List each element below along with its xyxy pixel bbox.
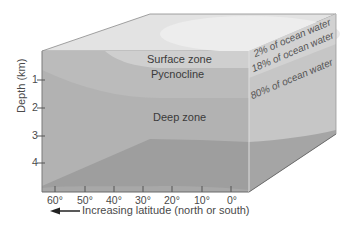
surface-zone-label: Surface zone [147, 53, 212, 65]
y-tick-4: 4 [32, 156, 38, 168]
y-axis-label: Depth (km) [15, 59, 27, 113]
pycnocline-label: Pycnocline [151, 68, 204, 80]
deep-zone-label: Deep zone [153, 111, 206, 123]
x-tick-60: 60° [47, 194, 63, 206]
y-tick-1: 1 [32, 73, 38, 85]
y-tick-2: 2 [32, 101, 38, 113]
y-tick-3: 3 [32, 129, 38, 141]
left-arrow-icon [50, 208, 80, 215]
x-axis-label: Increasing latitude (north or south) [82, 204, 250, 216]
